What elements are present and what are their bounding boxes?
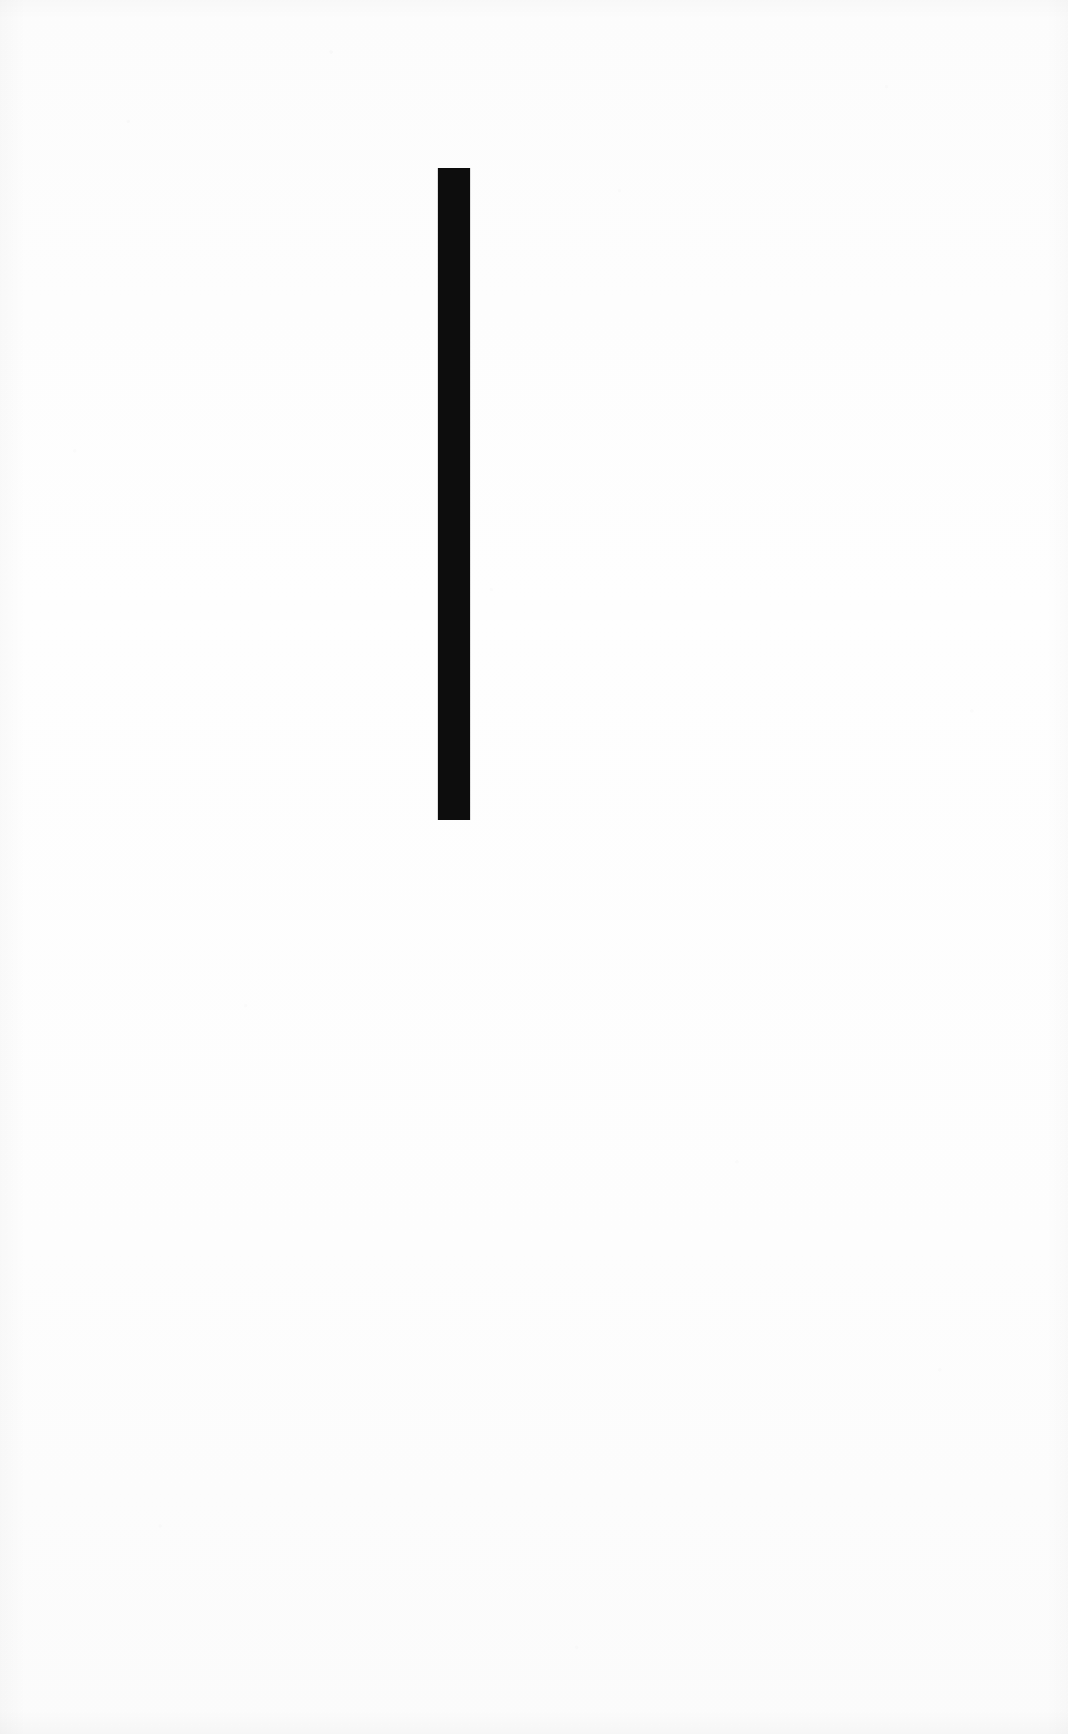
vertical-black-bar [438,168,470,820]
artwork-canvas [0,0,1068,1734]
